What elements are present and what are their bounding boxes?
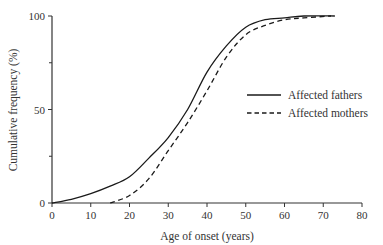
x-tick-label: 20 bbox=[124, 209, 136, 221]
y-tick-label: 0 bbox=[40, 197, 46, 209]
x-tick-label: 10 bbox=[85, 209, 97, 221]
x-tick-label: 60 bbox=[279, 209, 291, 221]
legend: Affected fathersAffected mothers bbox=[247, 89, 368, 119]
y-tick-label: 50 bbox=[34, 104, 46, 116]
x-tick-label: 70 bbox=[318, 209, 330, 221]
x-tick-label: 40 bbox=[202, 209, 214, 221]
x-tick-label: 0 bbox=[49, 209, 55, 221]
chart: 05010001020304050607080 Affected fathers… bbox=[0, 0, 383, 245]
x-tick-label: 80 bbox=[357, 209, 369, 221]
y-axis-label: Cumulative frequency (%) bbox=[7, 49, 20, 172]
legend-label: Affected fathers bbox=[288, 89, 363, 101]
x-tick-label: 30 bbox=[163, 209, 175, 221]
y-tick-label: 100 bbox=[29, 10, 46, 22]
legend-label: Affected mothers bbox=[288, 107, 368, 119]
x-axis-label: Age of onset (years) bbox=[160, 230, 254, 243]
x-tick-label: 50 bbox=[240, 209, 252, 221]
